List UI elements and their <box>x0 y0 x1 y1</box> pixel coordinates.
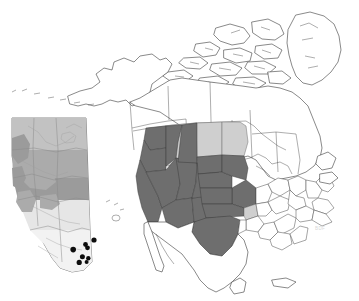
landmass-cuba <box>272 278 296 288</box>
alberta-inset-map <box>12 118 97 272</box>
state-nebraska <box>198 172 232 188</box>
occurrence-point <box>80 254 85 259</box>
occurrence-point <box>85 260 89 264</box>
watermark-text: BDF <box>315 226 325 231</box>
occurrence-point <box>85 245 90 250</box>
distribution-map-figure: BDF <box>0 0 359 301</box>
landmass-greenland <box>287 12 341 85</box>
state-missouri <box>232 180 256 208</box>
occurrence-point <box>91 237 96 242</box>
state-north-dakota <box>196 122 222 157</box>
state-south-dakota <box>197 155 222 174</box>
region-band-dry-mixedgrass <box>30 230 92 272</box>
state-oklahoma <box>202 204 244 218</box>
map-canvas <box>0 0 359 301</box>
occurrence-point <box>70 247 76 253</box>
state-kansas <box>200 188 232 204</box>
state-minnesota <box>222 122 248 156</box>
landmass-nova-scotia <box>320 172 338 184</box>
occurrence-point <box>77 260 82 265</box>
occurrence-point <box>86 256 90 260</box>
small-islands-speck <box>106 200 124 221</box>
